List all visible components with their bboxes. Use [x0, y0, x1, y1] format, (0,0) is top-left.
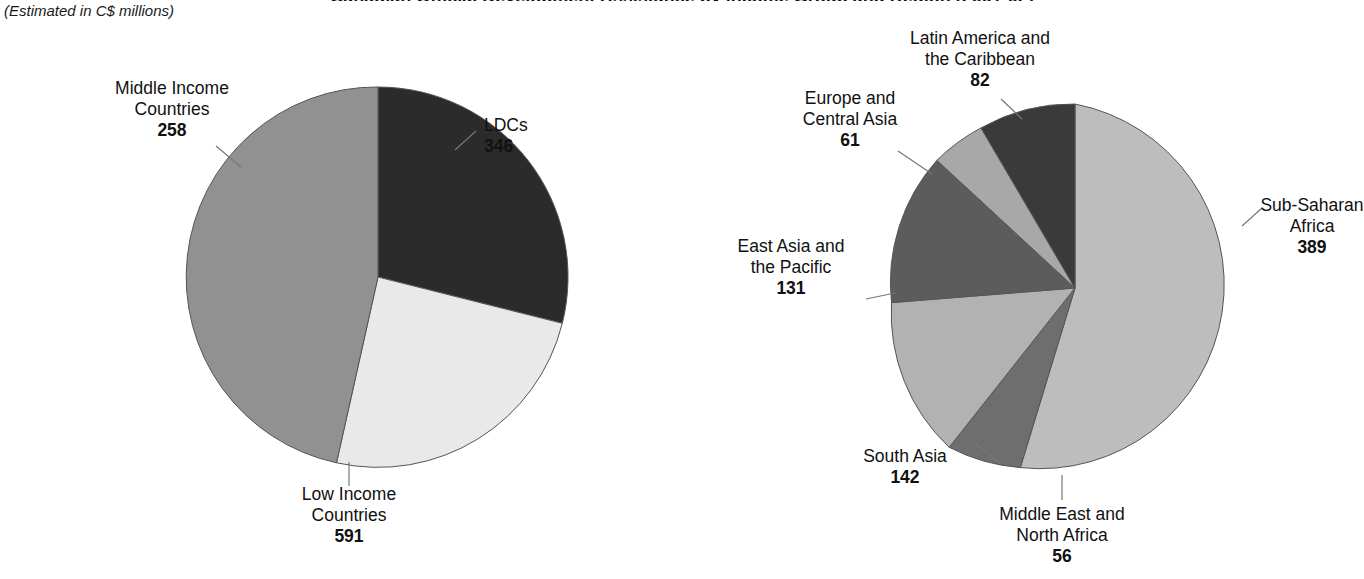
label-value: 61 [770, 130, 930, 151]
label-value: 591 [269, 526, 429, 547]
slice-middle-income-countries[interactable] [186, 87, 378, 463]
label-line-2: the Caribbean [925, 49, 1035, 69]
right-pie-chart [866, 99, 1262, 500]
label-value: 142 [838, 467, 972, 488]
label-line-1: Middle East and [999, 504, 1125, 524]
label-line-1: Europe and [805, 88, 896, 108]
label-value: 258 [92, 120, 252, 141]
label-ldcs: LDCs 346 [484, 115, 594, 157]
label-line-1: Middle Income [115, 78, 229, 98]
label-line-2: Countries [135, 99, 210, 119]
label-line-1: South Asia [863, 446, 947, 466]
label-low-income-countries: Low Income Countries 591 [269, 484, 429, 547]
leader-line-europe-central-asia [898, 151, 932, 174]
label-europe-and-central-asia: Europe and Central Asia 61 [770, 88, 930, 151]
label-line-1: East Asia and [737, 236, 844, 256]
label-latin-america-and-the-caribbean: Latin America and the Caribbean 82 [880, 28, 1080, 91]
label-middle-east-and-north-africa: Middle East and North Africa 56 [962, 504, 1162, 567]
label-line-2: Countries [312, 505, 387, 525]
label-line-1: LDCs [484, 115, 528, 135]
label-sub-saharan-africa: Sub-Saharan Africa 389 [1252, 195, 1364, 258]
label-line-2: Central Asia [803, 109, 897, 129]
label-line-1: Latin America and [910, 28, 1050, 48]
label-value: 346 [484, 136, 594, 157]
label-line-2: Africa [1290, 216, 1335, 236]
label-value: 131 [716, 278, 866, 299]
label-east-asia-and-the-pacific: East Asia and the Pacific 131 [716, 236, 866, 299]
label-south-asia: South Asia 142 [838, 446, 972, 488]
label-value: 56 [962, 546, 1162, 567]
label-value: 389 [1252, 237, 1364, 258]
label-line-1: Low Income [302, 484, 396, 504]
label-line-2: North Africa [1016, 525, 1107, 545]
label-line-1: Sub-Saharan [1260, 195, 1363, 215]
chart-page: Canadian Official Development Assistance… [0, 0, 1364, 579]
label-middle-income-countries: Middle Income Countries 258 [92, 78, 252, 141]
label-line-2: the Pacific [751, 257, 832, 277]
